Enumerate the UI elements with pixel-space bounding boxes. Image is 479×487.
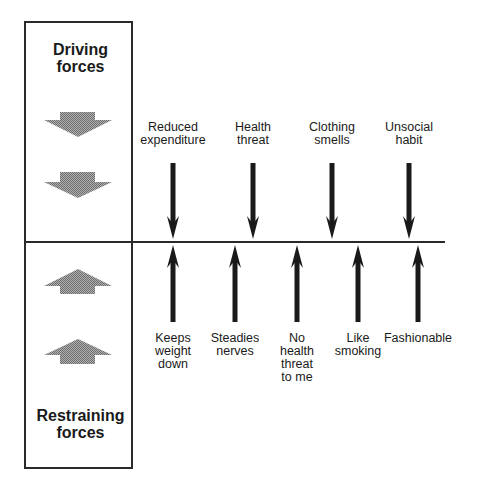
restraining-block-arrow-icon <box>44 339 112 364</box>
up-arrow-icon <box>412 245 424 322</box>
up-arrow-icon <box>291 245 303 322</box>
driving-block-arrow-icon <box>44 112 112 137</box>
driving-force-label: Reduced expenditure <box>133 121 213 147</box>
down-arrow-icon <box>167 163 179 239</box>
arrows-layer <box>0 0 479 487</box>
down-arrow-icon <box>326 163 338 239</box>
driving-force-label: Health threat <box>213 121 293 147</box>
driving-force-label: Clothing smells <box>292 121 372 147</box>
up-arrow-icon <box>167 245 179 322</box>
driving-force-label: Unsocial habit <box>369 121 449 147</box>
restraining-block-arrow-icon <box>44 269 112 294</box>
down-arrow-icon <box>403 163 415 239</box>
restraining-force-label: Fashionable <box>378 332 458 345</box>
up-arrow-icon <box>229 245 241 322</box>
driving-block-arrow-icon <box>44 172 112 198</box>
up-arrow-icon <box>352 245 364 322</box>
down-arrow-icon <box>247 163 259 239</box>
